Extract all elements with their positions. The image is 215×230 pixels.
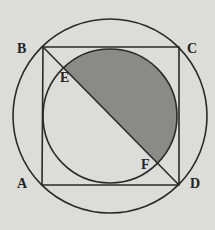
- label-e: E: [60, 70, 69, 86]
- figure-drawing: [0, 0, 215, 230]
- label-c: C: [187, 41, 197, 57]
- label-a: A: [17, 176, 27, 192]
- label-b: B: [17, 41, 26, 57]
- label-d: D: [190, 176, 200, 192]
- label-f: F: [141, 157, 150, 173]
- geometry-figure: B C A D E F: [0, 0, 215, 230]
